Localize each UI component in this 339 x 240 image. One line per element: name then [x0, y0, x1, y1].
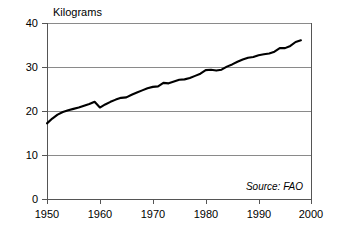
x-tick-label-2000: 2000 — [299, 208, 323, 220]
y-tick-label-40: 40 — [26, 17, 38, 29]
line-chart: 40 30 20 10 0 1950 1960 1970 1980 1990 2… — [0, 0, 339, 240]
x-tick-label-1970: 1970 — [141, 208, 165, 220]
x-tick-label-1960: 1960 — [88, 208, 112, 220]
x-tick-label-1980: 1980 — [194, 208, 218, 220]
chart-title: Kilograms — [53, 6, 102, 18]
x-tick-labels: 1950 1960 1970 1980 1990 2000 — [35, 208, 323, 220]
y-tick-marks — [42, 24, 47, 200]
chart-container: 40 30 20 10 0 1950 1960 1970 1980 1990 2… — [0, 0, 339, 240]
y-tick-label-30: 30 — [26, 61, 38, 73]
x-tick-label-1950: 1950 — [35, 208, 59, 220]
gridlines — [47, 24, 312, 156]
x-tick-label-1990: 1990 — [247, 208, 271, 220]
y-tick-label-20: 20 — [26, 105, 38, 117]
y-tick-label-10: 10 — [26, 149, 38, 161]
y-tick-label-0: 0 — [32, 193, 38, 205]
y-tick-labels: 40 30 20 10 0 — [26, 17, 38, 205]
data-series-line — [47, 40, 301, 123]
source-annotation: Source: FAO — [246, 181, 303, 192]
